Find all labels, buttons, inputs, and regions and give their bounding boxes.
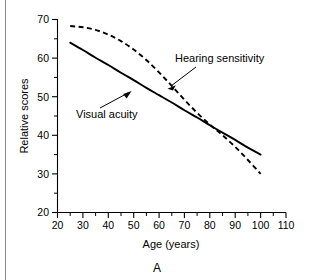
annotation-visual-acuity: Visual acuity xyxy=(76,91,138,120)
x-tick-label: 90 xyxy=(229,219,241,231)
chart-canvas: 20 30 40 50 60 70 xyxy=(0,0,309,280)
x-tick-label: 110 xyxy=(278,219,295,231)
x-tick-label: 30 xyxy=(77,219,89,231)
y-tick-label: 70 xyxy=(37,13,49,25)
x-tick-label: 20 xyxy=(52,219,64,231)
series-line-hearing-sensitivity xyxy=(70,26,260,174)
data-series-group xyxy=(70,26,260,174)
x-tick-label: 60 xyxy=(153,219,165,231)
y-tick-label: 20 xyxy=(37,206,49,218)
annotation-label-hearing-sensitivity: Hearing sensitivity xyxy=(175,52,265,64)
x-axis-tick-labels: 20 30 40 50 60 70 80 90 100 110 xyxy=(52,219,295,231)
y-axis-title: Relative scores xyxy=(18,78,30,154)
annotation-label-visual-acuity: Visual acuity xyxy=(76,108,138,120)
x-axis-title: Age (years) xyxy=(143,238,200,250)
annotation-leader-line-visual xyxy=(100,93,128,108)
x-tick-label: 40 xyxy=(102,219,114,231)
y-tick-label: 60 xyxy=(37,52,49,64)
x-tick-label: 70 xyxy=(179,219,191,231)
y-axis-tick-labels: 20 30 40 50 60 70 xyxy=(37,13,49,218)
annotation-arrowhead-visual xyxy=(123,91,131,98)
x-tick-label: 50 xyxy=(128,219,140,231)
y-tick-label: 40 xyxy=(37,129,49,141)
x-tick-label: 80 xyxy=(204,219,216,231)
annotation-leader-line-hearing xyxy=(171,67,196,86)
x-tick-label: 100 xyxy=(252,219,270,231)
annotation-hearing-sensitivity: Hearing sensitivity xyxy=(168,52,265,91)
figure-panel: 20 30 40 50 60 70 xyxy=(0,0,309,280)
y-tick-label: 50 xyxy=(37,91,49,103)
y-tick-label: 30 xyxy=(37,168,49,180)
